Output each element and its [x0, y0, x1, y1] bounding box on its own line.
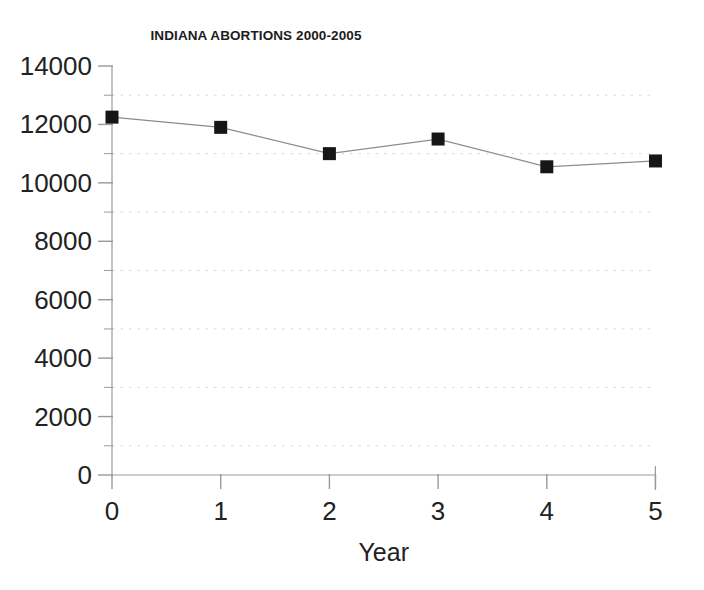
y-tick-label: 6000 [34, 287, 92, 313]
y-tick-label: 10000 [20, 170, 92, 196]
y-tick-label: 14000 [20, 53, 92, 79]
y-axis-ticks [98, 66, 113, 475]
data-point-marker [649, 154, 662, 167]
data-series [106, 111, 663, 174]
y-tick-label: 8000 [34, 228, 92, 254]
x-tick-label: 2 [299, 498, 359, 524]
data-point-marker [323, 147, 336, 160]
y-tick-label: 2000 [34, 404, 92, 430]
x-axis [112, 466, 656, 490]
chart-figure: INDIANA ABORTIONS 2000-2005 020004000600… [0, 0, 704, 590]
x-tick-label: 0 [82, 498, 142, 524]
x-tick-label: 3 [408, 498, 468, 524]
series-line [112, 117, 656, 167]
data-point-marker [214, 121, 227, 134]
data-point-marker [540, 160, 553, 173]
x-tick-label: 4 [517, 498, 577, 524]
y-tick-label: 0 [78, 462, 92, 488]
series-markers [106, 111, 663, 174]
gridlines-group [112, 95, 656, 446]
x-axis-title: Year [32, 538, 704, 567]
x-tick-label: 5 [626, 498, 686, 524]
y-tick-label: 4000 [34, 345, 92, 371]
x-tick-label: 1 [191, 498, 251, 524]
data-point-marker [432, 133, 445, 146]
y-tick-label: 12000 [20, 111, 92, 137]
data-point-marker [106, 111, 119, 124]
x-axis-ticks [112, 474, 656, 489]
